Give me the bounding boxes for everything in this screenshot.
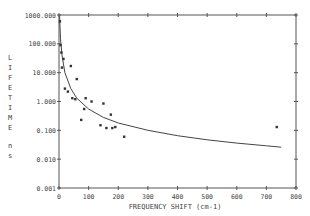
y-tick-label: 100.000 [29,40,56,48]
fit-curve [60,16,282,147]
y-tick-label: 0.001 [36,185,56,193]
data-point [59,20,61,22]
svg-text:E: E [8,84,12,92]
y-tick-label: 1.000 [36,98,56,106]
plot-frame [59,15,296,188]
data-point [102,102,104,104]
data-point [64,87,66,89]
data-point [105,127,107,129]
data-point [76,78,78,80]
x-tick-label: 0 [57,193,61,201]
data-point [59,44,61,46]
svg-text:E: E [8,124,12,132]
svg-text:I: I [8,64,12,72]
x-tick-label: 700 [261,193,273,201]
data-point [61,66,63,68]
x-tick-label: 300 [142,193,154,201]
data-point [67,90,69,92]
data-point [90,100,92,102]
y-tick-label: 0.010 [36,156,56,164]
svg-text:n: n [8,142,12,150]
data-point [71,97,73,99]
data-point [70,65,72,67]
lifetime-chart: 0100200300400500600700800 0.0010.0100.10… [0,0,310,216]
data-point [99,124,101,126]
svg-text:F: F [8,74,12,82]
data-points [59,20,278,138]
data-point [123,136,125,138]
svg-text:T: T [8,94,13,102]
data-point [62,58,64,60]
data-point [74,98,76,100]
data-point [60,51,62,53]
y-tick-label: 10.000 [33,69,57,77]
x-tick-label: 400 [172,193,184,201]
svg-text:L: L [8,54,12,62]
svg-text:s: s [8,152,12,160]
svg-text:M: M [8,114,12,122]
x-tick-label: 800 [290,193,302,201]
data-point [80,119,82,121]
data-point [84,97,86,99]
svg-text:I: I [8,104,12,112]
y-axis-label: LIFETIMEns [8,54,13,160]
data-point [114,126,116,128]
y-axis-ticks: 0.0010.0100.1001.00010.000100.0001000.00… [25,12,298,193]
x-tick-label: 100 [83,193,95,201]
data-point [110,113,112,115]
data-point [111,127,113,129]
y-tick-label: 0.100 [36,127,56,135]
data-point [276,126,278,128]
y-tick-label: 1000.000 [25,12,56,20]
data-point [83,108,85,110]
x-axis-label: FREQUENCY SHIFT (cm-1) [129,203,222,211]
x-axis-ticks: 0100200300400500600700800 [57,13,302,201]
x-tick-label: 200 [112,193,124,201]
x-tick-label: 500 [201,193,213,201]
x-tick-label: 600 [231,193,243,201]
